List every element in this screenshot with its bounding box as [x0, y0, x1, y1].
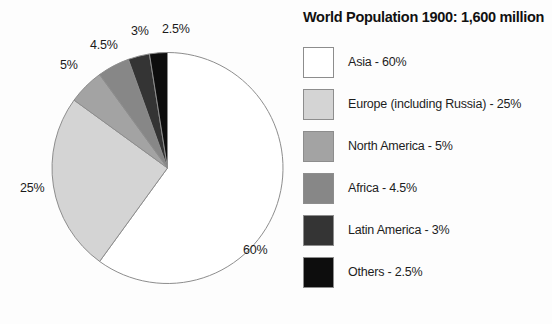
legend-color-swatch: [303, 131, 334, 162]
legend-item-label: Asia - 60%: [348, 55, 406, 69]
legend-item-label: Europe (including Russia) - 25%: [348, 97, 521, 111]
legend-item[interactable]: Africa - 4.5%: [290, 170, 552, 212]
legend-item[interactable]: Others - 2.5%: [290, 254, 552, 296]
pie-slice-value-label: 4.5%: [90, 38, 118, 52]
legend-item[interactable]: Europe (including Russia) - 25%: [290, 86, 552, 128]
legend-color-swatch: [303, 173, 334, 204]
legend-item[interactable]: North America - 5%: [290, 128, 552, 170]
chart-info-panel: World Population 1900: 1,600 million Asi…: [290, 0, 552, 324]
pie-slice-value-label: 5%: [60, 58, 78, 72]
legend-color-swatch: [303, 215, 334, 246]
legend-item[interactable]: Latin America - 3%: [290, 212, 552, 254]
pie-slice-value-label: 60%: [243, 243, 267, 257]
legend-color-swatch: [303, 89, 334, 120]
legend-item-label: Latin America - 3%: [348, 223, 449, 237]
pie-chart-area: 60%25%5%4.5%3%2.5%: [0, 0, 290, 324]
chart-legend: Asia - 60%Europe (including Russia) - 25…: [290, 44, 552, 296]
page-title: World Population 1900: 1,600 million: [303, 9, 544, 25]
legend-item-label: Others - 2.5%: [348, 265, 423, 279]
pie-slice-value-label: 2.5%: [162, 22, 190, 36]
pie-chart-svg: [0, 0, 290, 324]
pie-slice-value-label: 25%: [20, 181, 44, 195]
pie-slice-value-label: 3%: [131, 24, 149, 38]
legend-item-label: North America - 5%: [348, 139, 453, 153]
pie-chart-figure: 60%25%5%4.5%3%2.5% World Population 1900…: [0, 0, 552, 324]
legend-item[interactable]: Asia - 60%: [290, 44, 552, 86]
legend-color-swatch: [303, 47, 334, 78]
legend-item-label: Africa - 4.5%: [348, 181, 417, 195]
legend-color-swatch: [303, 257, 334, 288]
